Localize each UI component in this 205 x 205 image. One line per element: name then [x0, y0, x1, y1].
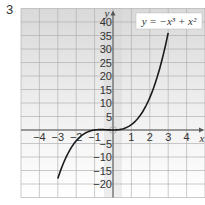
y-tick-label: −5 — [99, 138, 112, 150]
y-tick-label: −20 — [93, 178, 112, 190]
y-tick-label: −10 — [93, 151, 112, 163]
y-axis-label: y — [104, 7, 110, 19]
y-tick-label: 35 — [100, 30, 112, 42]
y-tick-label: 5 — [106, 111, 112, 123]
y-tick-label: 20 — [100, 70, 112, 82]
cubic-graph: −4−3−2−11234403530252015105−5−10−15−20xy… — [0, 0, 205, 205]
x-tick-label: 4 — [184, 131, 190, 143]
y-tick-label: 30 — [100, 43, 112, 55]
y-tick-label: 25 — [100, 57, 112, 69]
y-tick-label: 15 — [100, 84, 112, 96]
y-tick-label: −15 — [93, 165, 112, 177]
x-tick-label: −3 — [52, 131, 65, 143]
x-tick-label: 2 — [147, 131, 153, 143]
x-tick-label: 1 — [128, 131, 134, 143]
x-axis-label: x — [199, 132, 205, 144]
equation-label: y = −x³ + x² — [141, 15, 197, 27]
x-tick-label: 3 — [165, 131, 171, 143]
x-tick-label: −4 — [33, 131, 46, 143]
y-tick-label: 10 — [100, 97, 112, 109]
